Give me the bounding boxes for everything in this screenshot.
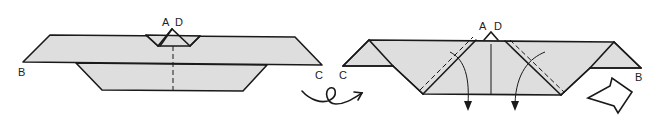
label-b: B bbox=[18, 66, 25, 78]
label-b: B bbox=[635, 71, 642, 83]
turn-over-arrow-icon bbox=[302, 88, 362, 104]
peak bbox=[484, 32, 498, 40]
label-d: D bbox=[494, 20, 502, 32]
push-arrow-icon bbox=[588, 78, 632, 113]
label-d: D bbox=[175, 16, 183, 28]
lower-flap bbox=[76, 63, 267, 91]
origami-diagram: A D B C bbox=[0, 0, 658, 123]
label-c: C bbox=[315, 69, 323, 81]
figure-left: A D B C bbox=[18, 16, 323, 91]
label-a: A bbox=[162, 16, 170, 28]
label-a: A bbox=[479, 20, 487, 32]
figure-right: A D C B bbox=[339, 20, 642, 111]
label-c: C bbox=[339, 69, 347, 81]
